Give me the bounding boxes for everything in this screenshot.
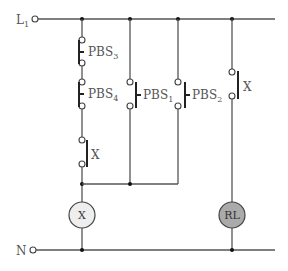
junction-dot-icon [80,248,84,252]
pbs3-label: PBS3 [88,45,118,61]
n-terminal-icon [30,247,36,253]
pbs2-label: PBS2 [192,88,222,104]
l1-label: L1 [16,13,29,29]
rl-lamp: RL [219,202,245,228]
rl-lamp-label: RL [224,209,240,222]
pbs1-label: PBS1 [143,88,173,104]
terminal-icon [175,103,181,109]
x-aux-label-left: X [91,148,100,162]
terminal-icon [127,103,133,109]
x-aux-label-right: X [243,80,252,94]
x-aux-contact-left: X [79,137,100,167]
pbs4-label: PBS4 [88,87,118,103]
ladder-diagram: L1 PBS3 PBS4 X [0,0,288,271]
relay-x-coil: X [69,202,95,228]
branch-2: PBS1 [127,17,173,184]
terminal-icon [127,79,133,85]
terminal-icon [229,93,235,99]
junction-dot-icon [230,248,234,252]
pbs4-contact: PBS4 [79,79,118,109]
pbs2-contact: PBS2 [175,79,222,109]
n-rail: N [16,244,275,258]
x-aux-contact-right: X [229,69,252,99]
terminal-icon [79,161,85,167]
l1-terminal-icon [32,16,38,22]
junction-dot-icon [128,182,132,186]
branch-1: PBS3 PBS4 X X [69,17,118,250]
n-label: N [16,244,27,258]
branch-4: X RL [219,17,252,250]
terminal-icon [175,79,181,85]
branch-3: PBS2 [175,17,222,184]
relay-x-label: X [78,209,86,222]
terminal-icon [229,69,235,75]
pbs3-contact: PBS3 [79,37,118,66]
l1-rail: L1 [16,13,275,29]
pbs1-contact: PBS1 [127,79,173,109]
terminal-icon [79,137,85,143]
